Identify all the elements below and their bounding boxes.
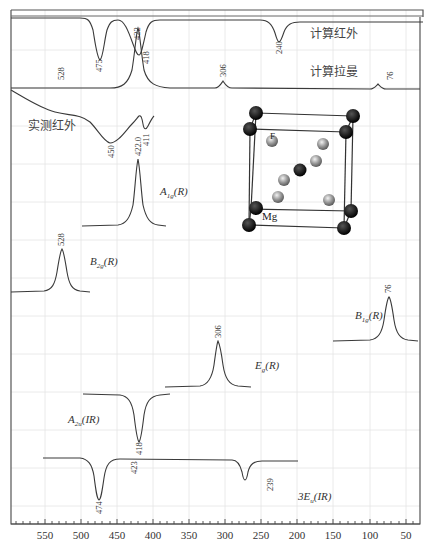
peak-label-a2u: 418 [134,442,144,455]
peak-label-eu-474: 474 [94,501,104,515]
crystal-structure-inset: F Mg [242,106,360,235]
curve-measured-ir [11,90,154,143]
tick-label: 250 [253,529,270,541]
f-atom [323,194,335,206]
grid [11,10,420,524]
label-measured-ir: 实测红外 [28,118,76,133]
tick-label: 500 [73,529,90,541]
mg-atom [339,125,353,139]
tick-label: 300 [217,529,234,541]
tick-label: 150 [325,529,342,541]
peak-label-b2g: 528 [56,233,66,246]
peak-label-ir-240: 240 [274,41,284,54]
mg-atom [249,106,263,120]
peak-label-eu-423: 423 [129,461,139,474]
mg-atom-center [294,164,307,177]
label-calc-raman: 计算拉曼 [310,64,358,79]
label-a1g: A1g(R) [159,185,188,200]
curve-calc-ir [11,18,423,60]
mg-atom [337,221,351,235]
label-a2u: A2u(IR) [67,413,100,428]
f-label: F [270,131,275,141]
f-atom [310,155,322,167]
f-atom [278,174,290,186]
peak-label-a1g: 422.0 [133,137,143,156]
curve-calc-raman [11,28,420,89]
mg-atom [344,204,358,218]
label-b1g: B1g(R) [355,309,383,324]
peak-label-eu-239: 239 [265,478,275,491]
mg-label: Mg [262,210,278,222]
mg-atom [242,218,256,232]
tick-label: 550 [37,529,54,541]
peak-label-raman-76: 76 [385,72,395,81]
f-atom [272,191,284,203]
tick-label: 450 [109,529,126,541]
tick-label: 100 [362,529,379,541]
curve-b2g [11,249,90,292]
f-atom [317,138,329,150]
mg-atom [243,122,257,136]
tick-label: 200 [289,529,306,541]
peak-label-ir-475: 475 [94,59,104,72]
label-calc-ir: 计算红外 [310,26,358,41]
mg-atom [346,109,360,123]
mg-atom [249,201,263,215]
x-axis-labels: 550 500 450 400 350 300 250 200 150 100 … [37,529,412,541]
peak-label-eg: 306 [213,325,223,338]
label-eu: 3Eu(IR) [297,490,332,505]
x-axis [11,519,420,524]
peak-label-raman-422: 422 [132,27,142,40]
peak-label-b1g: 76 [383,285,393,294]
peak-label-raman-528: 528 [56,67,66,80]
label-b2g: B2g(R) [90,255,118,270]
spectrum-chart: 475 418 240 计算红外 528 422 306 76 计算拉曼 450… [0,0,434,556]
peak-label-measured-450: 450 [106,145,116,158]
tick-label: 400 [145,529,162,541]
peak-label-raman-306: 306 [218,64,228,77]
tick-label: 50 [401,529,413,541]
label-eg: Eg(R) [254,359,280,374]
tick-label: 350 [181,529,198,541]
curve-eg [165,341,251,387]
